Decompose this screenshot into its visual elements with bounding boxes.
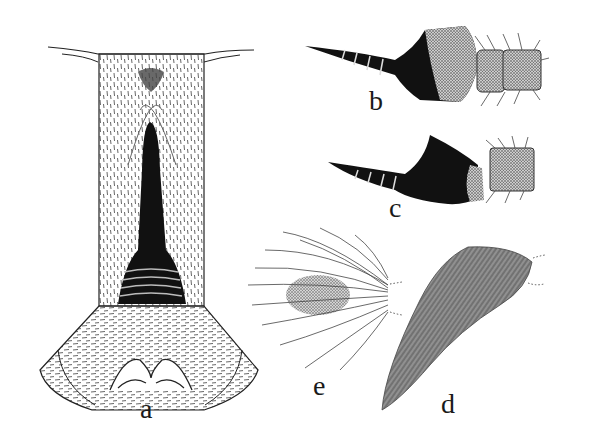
panel-label-c: c	[389, 194, 401, 222]
panel-label-e: e	[313, 372, 325, 400]
panel-d-drawing	[382, 247, 545, 410]
panel-label-d: d	[441, 390, 455, 418]
panel-c-drawing	[328, 135, 534, 204]
panel-a-drawing	[40, 47, 258, 410]
panel-e-drawing	[248, 228, 402, 370]
panel-label-a: a	[140, 395, 152, 423]
figure-canvas	[0, 0, 590, 436]
panel-b-drawing	[305, 26, 549, 106]
panel-label-b: b	[369, 87, 383, 115]
